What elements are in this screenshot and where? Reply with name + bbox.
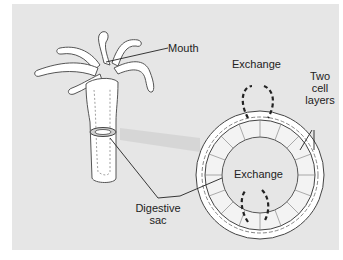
label-digestive-sac: Digestive sac	[128, 202, 188, 226]
label-exchange-top: Exchange	[232, 58, 281, 70]
diagram-canvas: Mouth Exchange Two cell layers Exchange …	[0, 0, 343, 260]
label-mouth: Mouth	[168, 42, 199, 54]
projection-shadow	[120, 128, 200, 152]
hydra-organism	[35, 32, 154, 183]
label-two-cell-layers: Two cell layers	[300, 70, 340, 106]
label-exchange-inner: Exchange	[234, 168, 283, 180]
